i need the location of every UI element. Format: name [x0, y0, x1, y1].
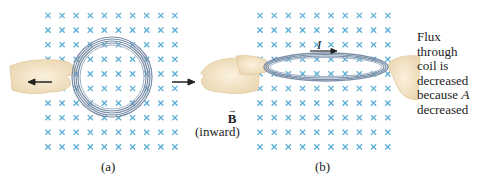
left-hand-a [10, 60, 76, 94]
flux-annotation: Flux through coil is decreased because A… [417, 30, 490, 117]
field-direction-label: (inward) [195, 124, 240, 140]
caption-b: (b) [315, 159, 330, 175]
vector-arrow-icon: → [228, 105, 237, 115]
annotation-line: decreased [417, 74, 490, 89]
coil-circular [72, 37, 152, 117]
right-hand-b [388, 56, 420, 100]
left-hand-b [236, 56, 268, 75]
current-label: I [317, 38, 321, 51]
annotation-line: Flux [417, 30, 490, 45]
pull-arrow-right-icon [172, 79, 195, 85]
annotation-line: through [417, 45, 490, 60]
annotation-line: because A [417, 88, 490, 103]
annotation-line: coil is [417, 59, 490, 74]
annotation-line: decreased [417, 103, 490, 118]
coil-flattened [264, 53, 388, 81]
caption-a: (a) [101, 159, 115, 175]
